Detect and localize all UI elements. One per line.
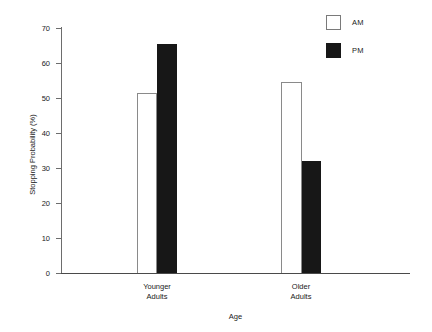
y-axis-label: Stopping Probability (%) [28,60,37,250]
y-tick-mark [56,28,61,29]
y-tick-mark [56,203,61,204]
y-tick-mark [56,63,61,64]
black-square-swatch-icon [326,43,341,58]
bar-am-group1 [137,93,157,273]
bar-am-group2 [281,82,302,273]
x-category-label-2: OlderAdults [241,282,361,301]
legend-item-pm: PM [326,36,426,64]
x-axis-spine [61,273,410,274]
y-tick-mark [56,238,61,239]
x-category-label-line2: Adults [97,292,217,302]
y-tick-label: 70 [10,24,50,33]
white-square-swatch-icon [326,15,341,30]
bar-chart-figure: AM PM 010203040506070 Stopping Probabili… [0,0,432,332]
y-axis-spine [61,27,62,274]
x-category-label-1: YoungerAdults [97,282,217,301]
x-category-label-line1: Younger [97,282,217,292]
y-tick-mark [56,98,61,99]
bar-pm-group2 [302,161,321,273]
x-category-label-line2: Adults [241,292,361,302]
legend-label-pm: PM [352,46,364,55]
bar-pm-group1 [157,44,177,273]
y-tick-mark [56,168,61,169]
y-tick-label: 0 [10,269,50,278]
y-tick-mark [56,133,61,134]
x-axis-label: Age [61,312,410,321]
legend-label-am: AM [352,18,364,27]
legend-item-am: AM [326,8,426,36]
y-tick-mark [56,273,61,274]
chart-legend: AM PM [326,8,426,64]
x-category-label-line1: Older [241,282,361,292]
